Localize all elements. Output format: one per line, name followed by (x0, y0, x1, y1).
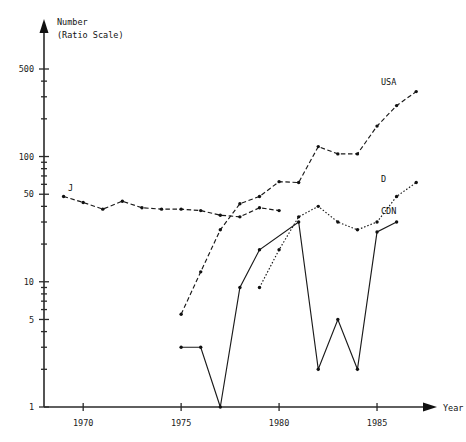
data-point-CDN (297, 220, 300, 223)
data-point-USA (395, 104, 398, 107)
data-series (62, 90, 418, 409)
x-tick-label-1980: 1980 (269, 418, 289, 428)
data-point-USA (375, 124, 378, 127)
data-point-USA (336, 152, 339, 155)
data-point-D (356, 228, 359, 231)
data-point-J (238, 215, 241, 218)
y-tick-label-10: 10 (24, 277, 34, 287)
y-tick-label-5: 5 (29, 315, 34, 325)
data-point-USA (356, 152, 359, 155)
series-label-J: J (68, 183, 73, 193)
data-point-CDN (258, 248, 261, 251)
y-axis-arrowhead (40, 19, 49, 33)
data-point-USA (415, 90, 418, 93)
data-point-J (62, 195, 65, 198)
data-point-CDN (179, 346, 182, 349)
data-point-D (277, 248, 280, 251)
data-point-D (395, 195, 398, 198)
series-label-CDN: CDN (381, 206, 396, 216)
data-point-D (258, 286, 261, 289)
data-point-J (160, 207, 163, 210)
data-point-D (297, 215, 300, 218)
data-point-CDN (238, 286, 241, 289)
series-label-USA: USA (381, 77, 396, 87)
y-tick-label-50: 50 (24, 189, 34, 199)
data-point-CDN (395, 220, 398, 223)
x-axis-title: Year (443, 403, 463, 413)
data-point-USA (199, 270, 202, 273)
series-line-J (64, 196, 279, 216)
series-labels: JUSADCDN (68, 77, 396, 216)
data-point-USA (179, 313, 182, 316)
series-line-CDN (181, 222, 396, 407)
series-line-D (259, 183, 416, 288)
data-point-J (179, 207, 182, 210)
x-tick-label-1985: 1985 (367, 418, 387, 428)
x-tick-label-1975: 1975 (171, 418, 191, 428)
data-point-CDN (317, 368, 320, 371)
line-chart-canvas: 151050100500 1970197519801985 Number (Ra… (0, 0, 466, 442)
data-point-D (317, 205, 320, 208)
data-point-J (219, 214, 222, 217)
y-axis-title-line1: Number (57, 17, 88, 27)
x-axis-arrowhead (423, 403, 437, 412)
data-point-J (101, 207, 104, 210)
data-point-D (415, 181, 418, 184)
chart-figure: 151050100500 1970197519801985 Number (Ra… (0, 0, 466, 442)
data-point-J (199, 209, 202, 212)
series-line-USA (181, 92, 416, 315)
y-axis-title-line2: (Ratio Scale) (57, 30, 124, 40)
x-tick-label-1970: 1970 (73, 418, 93, 428)
data-point-USA (297, 181, 300, 184)
y-tick-label-500: 500 (19, 64, 34, 74)
data-point-CDN (356, 368, 359, 371)
data-point-J (277, 209, 280, 212)
data-point-CDN (336, 318, 339, 321)
data-point-CDN (219, 405, 222, 408)
data-point-USA (238, 202, 241, 205)
data-point-USA (219, 228, 222, 231)
y-tick-label-1: 1 (29, 402, 34, 412)
data-point-D (375, 220, 378, 223)
data-point-USA (258, 195, 261, 198)
data-point-J (121, 199, 124, 202)
axes (40, 19, 438, 412)
data-point-J (258, 206, 261, 209)
data-point-CDN (199, 346, 202, 349)
y-tick-label-100: 100 (19, 152, 34, 162)
series-label-D: D (381, 174, 386, 184)
data-point-J (140, 206, 143, 209)
data-point-USA (277, 180, 280, 183)
data-point-CDN (375, 230, 378, 233)
data-point-D (336, 220, 339, 223)
data-point-J (81, 201, 84, 204)
data-point-USA (317, 145, 320, 148)
